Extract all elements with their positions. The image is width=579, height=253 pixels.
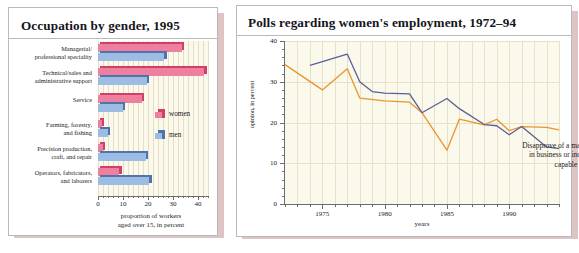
bar-category-label: Service — [8, 96, 92, 104]
left-chart-title: Occupation by gender, 1995 — [21, 18, 180, 34]
x-tick-label: 1980 — [378, 210, 392, 218]
right-y-axis-line — [284, 41, 285, 205]
x-tick — [133, 196, 134, 198]
legend-label-men: men — [169, 131, 181, 139]
right-plot-area — [285, 41, 559, 204]
x-tick — [422, 205, 423, 207]
x-tick-label: 40 — [195, 200, 202, 208]
x-tick — [188, 196, 189, 198]
x-tick — [203, 196, 204, 198]
grid-line — [123, 41, 124, 196]
bar-men — [98, 153, 146, 161]
y-tick — [282, 147, 284, 148]
x-tick — [347, 205, 348, 207]
x-tick — [434, 205, 435, 207]
x-tick — [559, 205, 560, 207]
grid-line — [128, 41, 129, 196]
grid-line — [193, 41, 194, 196]
grid-line — [168, 41, 169, 196]
y-tick-label: 40 — [261, 37, 277, 45]
x-tick-label: 1985 — [440, 210, 454, 218]
x-tick — [385, 205, 386, 209]
x-tick-label: 20 — [145, 200, 152, 208]
y-tick — [282, 65, 284, 66]
x-tick — [143, 196, 144, 198]
x-tick — [459, 205, 460, 207]
grid-line — [163, 41, 164, 196]
y-tick — [280, 82, 284, 83]
x-tick — [534, 205, 535, 207]
figure-container: Occupation by gender, 1995 Managerial/pr… — [0, 0, 579, 253]
x-tick — [310, 205, 311, 207]
bar-men — [98, 129, 108, 137]
x-tick — [547, 205, 548, 207]
y-tick — [282, 180, 284, 181]
left-title-divider — [9, 38, 217, 39]
grid-line — [153, 41, 154, 196]
y-tick — [282, 171, 284, 172]
annotation-disapprove-married-woman: Disapprove of a married woman earning mo… — [519, 141, 579, 169]
x-tick — [509, 205, 510, 209]
legend-swatch-women-icon — [155, 109, 164, 118]
y-tick — [282, 114, 284, 115]
y-tick — [282, 139, 284, 140]
grid-line — [138, 41, 139, 196]
right-panel-shadow-right — [572, 11, 578, 239]
x-tick — [113, 196, 114, 198]
grid-line — [133, 41, 134, 196]
grid-line — [208, 41, 209, 196]
bar-category-label: Farming, forestry,and fishing — [8, 121, 92, 136]
x-tick — [484, 205, 485, 207]
y-tick-label: 30 — [261, 78, 277, 86]
polls-womens-employment-panel: Polls regarding women's employment, 1972… — [236, 5, 572, 237]
x-tick-label: 0 — [96, 200, 100, 208]
x-tick — [118, 196, 119, 198]
grid-line — [143, 41, 144, 196]
bar-men — [98, 177, 149, 185]
x-tick — [158, 196, 159, 198]
left-x-axis-caption: proportion of workersaged over 15, in pe… — [86, 212, 216, 229]
grid-line-horizontal — [285, 123, 559, 124]
y-tick — [280, 41, 284, 42]
bar-category-label: Technical/sales andadministrative suppor… — [8, 69, 92, 84]
occupation-by-gender-panel: Occupation by gender, 1995 Managerial/pr… — [8, 7, 218, 236]
grid-line — [178, 41, 179, 196]
x-tick — [322, 205, 323, 209]
x-tick — [447, 205, 448, 209]
x-tick — [168, 196, 169, 198]
grid-line — [158, 41, 159, 196]
x-tick — [103, 196, 104, 198]
y-tick-label: 10 — [261, 159, 277, 167]
y-tick — [280, 204, 284, 205]
grid-line — [148, 41, 149, 196]
y-tick — [280, 163, 284, 164]
x-tick — [360, 205, 361, 207]
grid-line — [203, 41, 204, 196]
y-tick — [282, 131, 284, 132]
y-tick — [282, 57, 284, 58]
grid-line — [183, 41, 184, 196]
y-tick — [282, 74, 284, 75]
left-panel-shadow-right — [218, 13, 224, 238]
x-tick — [108, 196, 109, 198]
x-tick-label: 10 — [120, 200, 127, 208]
x-tick-label: 1975 — [315, 210, 329, 218]
x-tick — [138, 196, 139, 198]
x-tick — [335, 205, 336, 207]
x-tick — [297, 205, 298, 207]
bar-men — [98, 53, 164, 61]
grid-line-vertical — [559, 41, 560, 204]
y-tick — [280, 123, 284, 124]
y-tick — [282, 155, 284, 156]
grid-line — [198, 41, 199, 196]
bar-men — [98, 104, 123, 112]
x-tick-label: 30 — [170, 200, 177, 208]
x-tick — [183, 196, 184, 198]
x-tick — [163, 196, 164, 198]
right-y-axis-label: opinion, in percent — [248, 70, 255, 140]
x-tick — [285, 205, 286, 207]
legend-swatch-men-icon — [155, 130, 164, 139]
x-tick — [472, 205, 473, 207]
x-tick-label: 1990 — [502, 210, 516, 218]
grid-line-horizontal — [285, 163, 559, 164]
